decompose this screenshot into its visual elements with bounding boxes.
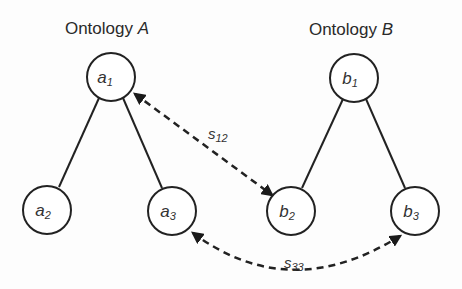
- ontology-mapping-diagram: Ontology A Ontology B s12 s33 a1 a2 a3 b…: [0, 0, 462, 289]
- mapping-edge-s12: [135, 94, 272, 195]
- node-a3: a3: [148, 187, 196, 235]
- ontology-b-title: Ontology B: [309, 20, 393, 39]
- tree-edge-a1-a3: [123, 98, 162, 188]
- ontology-a-title: Ontology A: [65, 19, 149, 38]
- mapping-label-s33: s33: [284, 254, 305, 273]
- node-b2: b2: [267, 187, 315, 235]
- tree-edge-a1-a2: [59, 98, 99, 187]
- tree-edge-b1-b2: [302, 99, 343, 188]
- diagram-svg: Ontology A Ontology B s12 s33 a1 a2 a3 b…: [0, 0, 462, 289]
- mapping-label-s12: s12: [208, 125, 228, 144]
- tree-edge-b1-b3: [366, 99, 405, 188]
- node-a2: a2: [23, 186, 71, 234]
- node-a1: a1: [87, 53, 135, 101]
- node-b3: b3: [391, 187, 439, 235]
- node-b1: b1: [330, 54, 378, 102]
